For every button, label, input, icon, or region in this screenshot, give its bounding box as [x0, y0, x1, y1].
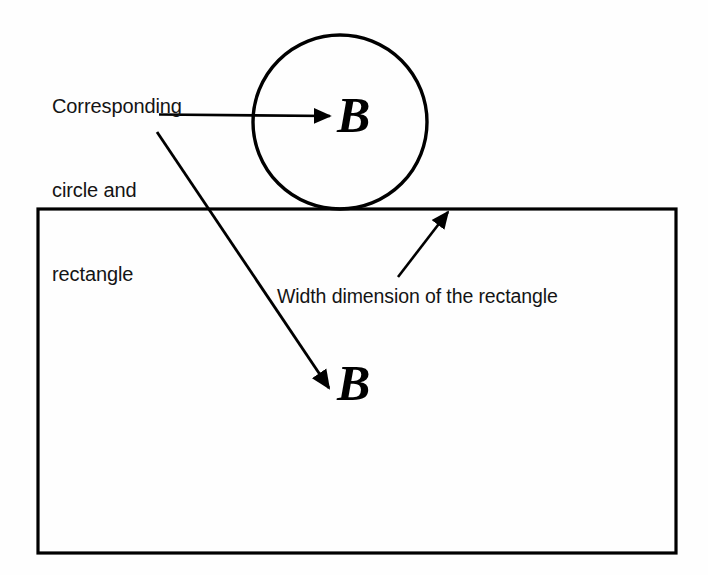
callout-corresponding-circle-and-rectangle: Corresponding circle and rectangle: [52, 36, 182, 344]
leader-line-to-circle: [159, 115, 330, 117]
label-width-dimension: Width dimension of the rectangle: [277, 284, 558, 308]
leader-line-width-dimension: [398, 212, 448, 277]
rectangle-label-b: B: [337, 358, 370, 408]
callout-line-2: circle and: [52, 176, 182, 204]
callout-line-3: rectangle: [52, 260, 182, 288]
circle-label-b: B: [337, 90, 370, 140]
diagram-canvas: Corresponding circle and rectangle Width…: [0, 0, 708, 575]
leader-line-to-rectangle: [157, 132, 329, 388]
callout-line-1: Corresponding: [52, 92, 182, 120]
